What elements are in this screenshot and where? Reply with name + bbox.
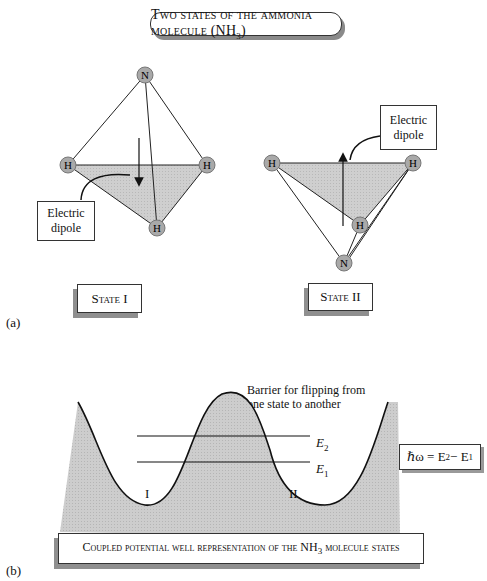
svg-text:H: H	[356, 219, 364, 231]
svg-text:N: N	[340, 257, 348, 269]
atom-h: H	[60, 157, 76, 173]
e1-label: E1	[316, 461, 328, 479]
svg-text:H: H	[409, 157, 417, 169]
atom-h: H	[352, 217, 368, 233]
atom-h: H	[199, 157, 215, 173]
state1-label: State I	[77, 284, 142, 313]
e2-label: E2	[316, 435, 328, 453]
callout-leader	[350, 136, 380, 160]
atom-h: H	[405, 155, 421, 171]
svg-text:N: N	[141, 69, 149, 81]
atom-n: N	[336, 255, 352, 271]
state2-molecule: H H H N	[264, 136, 421, 271]
state1-dipole-callout: Electric dipole	[37, 201, 95, 241]
well-label-i: I	[145, 486, 149, 502]
panel-a-label: (a)	[6, 315, 20, 331]
svg-text:H: H	[268, 157, 276, 169]
energy-equation: ℏω = E2 − E1	[399, 444, 481, 470]
state2-label: State II	[308, 283, 373, 311]
atom-h: H	[149, 220, 165, 236]
panel-b-label: (b)	[6, 563, 21, 579]
svg-text:H: H	[64, 159, 72, 171]
atom-h: H	[264, 155, 280, 171]
panel-b-caption: Coupled potential well representation of…	[58, 533, 424, 564]
atom-n: N	[137, 67, 153, 83]
state2-dipole-callout: Electric dipole	[380, 105, 437, 150]
svg-text:H: H	[153, 222, 161, 234]
svg-text:H: H	[203, 159, 211, 171]
molecule-diagrams: N H H H H H H N	[0, 0, 487, 330]
well-label-ii: II	[289, 486, 298, 502]
